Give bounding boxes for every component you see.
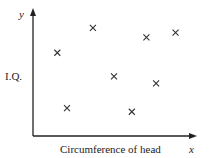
x-marker-icon: [129, 109, 135, 115]
scatter-plot: y I.Q. x Circumference of head: [0, 0, 209, 158]
data-points: [54, 25, 178, 115]
x-axis-arrow-icon: [189, 133, 197, 139]
x-marker-icon: [54, 50, 60, 56]
y-axis: [30, 8, 36, 136]
x-marker-icon: [90, 25, 96, 31]
x-axis-label: Circumference of head: [60, 143, 161, 155]
y-axis-label: I.Q.: [5, 70, 22, 82]
x-marker-icon: [111, 73, 117, 79]
y-axis-arrow-icon: [30, 8, 36, 16]
x-marker-icon: [143, 34, 149, 40]
x-axis: [33, 133, 197, 139]
x-axis-symbol: x: [188, 143, 194, 155]
y-axis-symbol: y: [18, 8, 24, 20]
x-marker-icon: [64, 105, 70, 111]
x-marker-icon: [153, 80, 159, 86]
x-marker-icon: [173, 30, 179, 36]
